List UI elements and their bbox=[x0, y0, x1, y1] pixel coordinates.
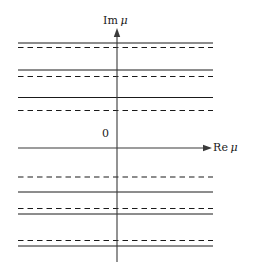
arrow-right-icon bbox=[203, 145, 212, 151]
real-axis-label-text: Re bbox=[213, 141, 228, 154]
figure-canvas bbox=[0, 0, 258, 272]
axes-group bbox=[18, 28, 212, 262]
real-axis-label: Re μ bbox=[213, 141, 238, 154]
imaginary-axis-label-text: Im bbox=[103, 14, 118, 27]
origin-label: 0 bbox=[102, 127, 109, 140]
complex-plane-figure: Im μ Re μ 0 bbox=[0, 0, 258, 272]
imaginary-axis-label-symbol: μ bbox=[121, 14, 128, 27]
real-axis-label-symbol: μ bbox=[231, 141, 238, 154]
horizontal-line-group bbox=[18, 43, 213, 246]
imaginary-axis-label: Im μ bbox=[103, 14, 128, 27]
arrow-up-icon bbox=[114, 28, 120, 37]
